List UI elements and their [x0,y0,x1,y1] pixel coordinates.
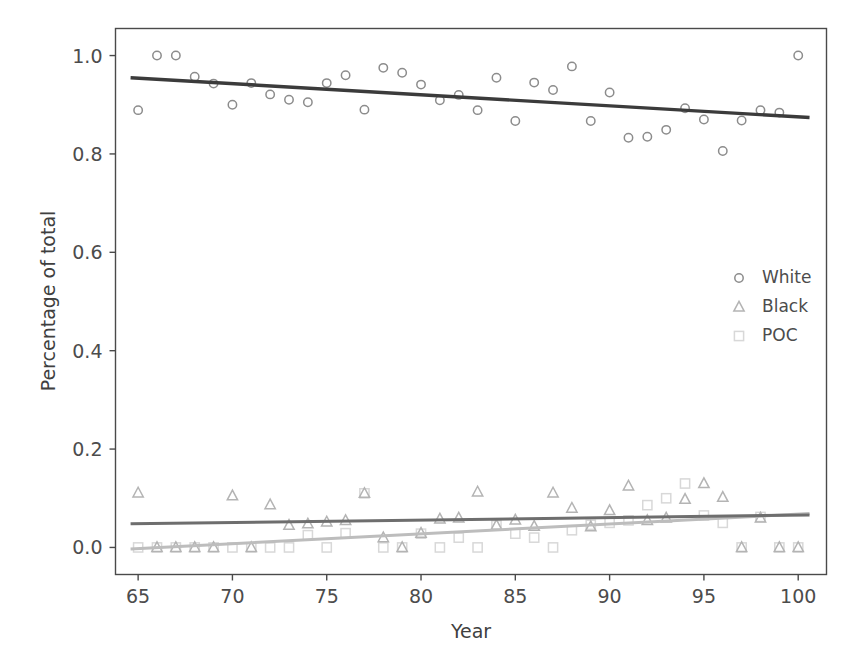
x-axis-title: Year [450,620,491,642]
x-tick-label: 95 [692,585,716,607]
scatter-plot-figure: 0.00.20.40.60.81.0 65707580859095100 Yea… [0,0,865,661]
x-tick-label: 85 [503,585,527,607]
y-tick-label: 0.6 [72,241,102,263]
y-tick-label: 0.4 [72,340,102,362]
legend-label-black: Black [762,296,808,316]
plot-canvas: 0.00.20.40.60.81.0 65707580859095100 Yea… [0,0,865,661]
figure-background [0,0,865,661]
x-tick-label: 90 [598,585,622,607]
y-tick-label: 0.2 [72,438,102,460]
legend-label-poc: POC [762,325,798,345]
x-tick-label: 65 [126,585,150,607]
x-tick-label: 70 [220,585,244,607]
y-axis-title: Percentage of total [37,211,59,392]
y-tick-label: 0.8 [72,143,102,165]
x-tick-label: 100 [780,585,816,607]
y-tick-label: 0.0 [72,536,102,558]
y-tick-label: 1.0 [72,45,102,67]
x-tick-label: 75 [315,585,339,607]
legend-label-white: White [762,267,811,287]
x-tick-label: 80 [409,585,433,607]
